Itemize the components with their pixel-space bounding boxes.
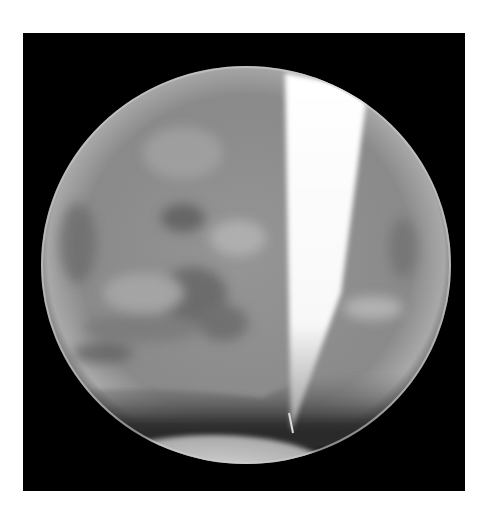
photo-frame: Grayscale telescope photograph of a plan… (23, 33, 465, 491)
planet-disk (23, 33, 465, 491)
